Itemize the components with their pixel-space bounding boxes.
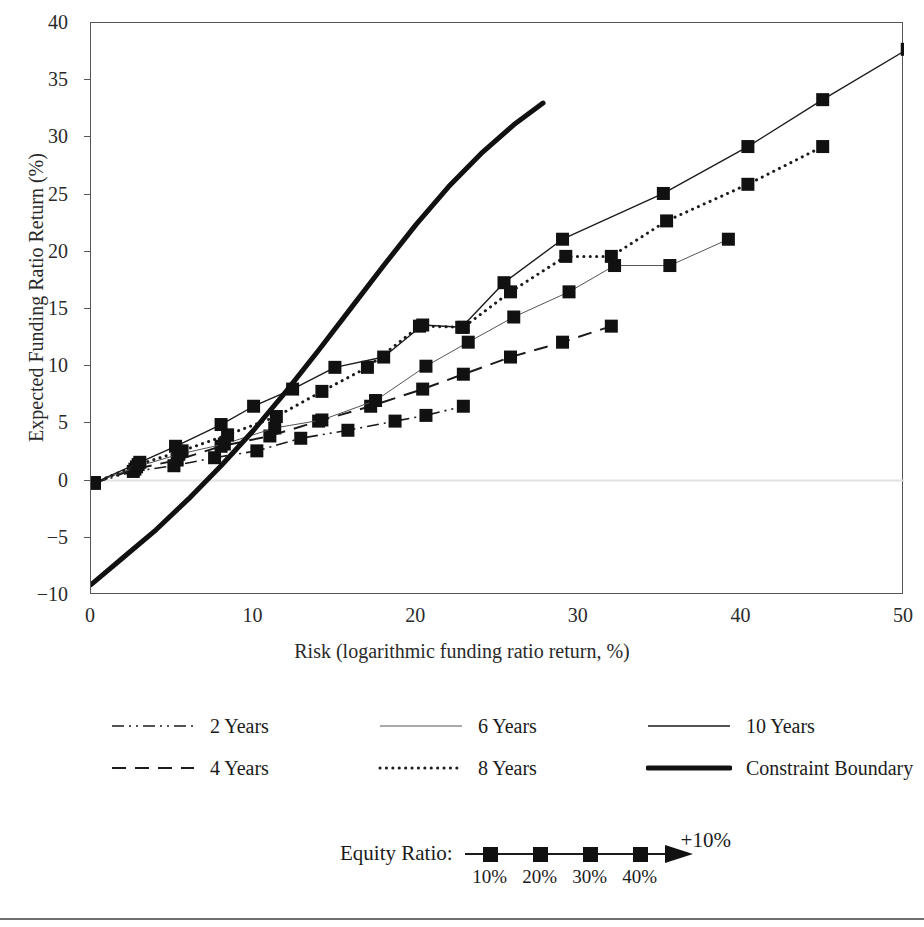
data-point-marker (341, 424, 354, 437)
series-8-years (91, 140, 829, 489)
data-point-marker (556, 233, 569, 246)
y-axis-title: Expected Funding Ratio Return (%) (25, 18, 48, 578)
data-point-marker (294, 432, 307, 445)
data-point-marker (722, 233, 735, 246)
legend-item-6-years[interactable]: 6 Years (378, 715, 537, 738)
x-tick-label: 50 (893, 604, 913, 626)
data-point-marker (250, 444, 263, 457)
data-point-marker (901, 43, 904, 56)
series-line (94, 239, 728, 483)
series-line (94, 49, 904, 483)
data-point-marker (328, 361, 341, 374)
legend-row: 4 Years8 YearsConstraint Boundary (110, 747, 910, 789)
legend-label: 8 Years (478, 757, 537, 780)
legend-swatch-icon (378, 717, 464, 735)
x-axis: 01020304050 (0, 604, 924, 638)
data-point-marker (215, 418, 228, 431)
bottom-divider (0, 918, 924, 920)
series-constraint-boundary (91, 103, 543, 585)
data-point-marker (315, 413, 328, 426)
series-line (91, 103, 543, 585)
plot-series-svg (91, 23, 904, 595)
equity-ratio-annotation: Equity Ratio: +10% 10%20%30%40% (0, 838, 924, 898)
y-tick-label: 5 (58, 412, 68, 432)
legend-item-constraint-boundary[interactable]: Constraint Boundary (646, 757, 913, 780)
y-tick-label: 30 (48, 126, 68, 146)
y-tick-label: 10 (48, 355, 68, 375)
data-point-marker (315, 385, 328, 398)
data-point-marker (507, 311, 520, 324)
data-point-marker (816, 93, 829, 106)
data-point-marker (563, 285, 576, 298)
data-point-marker (416, 383, 429, 396)
y-tick-label: 35 (48, 69, 68, 89)
equity-ratio-scale: +10% 10%20%30%40% (459, 838, 719, 894)
legend-swatch-icon (110, 759, 196, 777)
equity-ratio-tick-label: 40% (622, 866, 657, 888)
plot-area (90, 22, 903, 594)
x-tick-label: 40 (730, 604, 750, 626)
data-point-marker (369, 394, 382, 407)
x-axis-title: Risk (logarithmic funding ratio return, … (0, 640, 924, 663)
data-point-marker (605, 320, 618, 333)
legend-swatch-icon (646, 759, 732, 777)
data-point-marker (389, 415, 402, 428)
data-point-marker (377, 351, 390, 364)
x-tick-label: 10 (243, 604, 263, 626)
data-point-marker (741, 178, 754, 191)
legend-item-10-years[interactable]: 10 Years (646, 715, 815, 738)
equity-ratio-tick-label: 10% (472, 866, 507, 888)
equity-ratio-tick-label: 30% (572, 866, 607, 888)
data-point-marker (169, 440, 182, 453)
legend-label: Constraint Boundary (746, 757, 913, 780)
data-point-marker (416, 319, 429, 332)
legend-swatch-icon (110, 717, 196, 735)
data-point-marker (268, 421, 281, 434)
y-tick-label: 25 (48, 184, 68, 204)
data-point-marker (462, 336, 475, 349)
series-10-years (91, 43, 904, 490)
data-point-marker (419, 360, 432, 373)
legend-label: 6 Years (478, 715, 537, 738)
y-tick-label: −5 (47, 527, 68, 547)
data-point-marker (247, 400, 260, 413)
legend-label: 10 Years (746, 715, 815, 738)
y-tick-label: 20 (48, 241, 68, 261)
data-point-marker (419, 409, 432, 422)
x-tick-label: 30 (568, 604, 588, 626)
data-point-marker (556, 336, 569, 349)
y-tick-label: −10 (37, 584, 68, 604)
data-point-marker (457, 368, 470, 381)
x-tick-label: 20 (405, 604, 425, 626)
legend-item-4-years[interactable]: 4 Years (110, 757, 269, 780)
data-point-marker (91, 476, 101, 489)
legend-label: 4 Years (210, 757, 269, 780)
legend: 2 Years6 Years10 Years4 Years8 YearsCons… (110, 705, 910, 789)
legend-swatch-icon (646, 717, 732, 735)
x-tick-label: 0 (85, 604, 95, 626)
data-point-marker (741, 140, 754, 153)
data-point-marker (457, 400, 470, 413)
data-point-marker (660, 214, 673, 227)
equity-ratio-tick-label: 20% (522, 866, 557, 888)
data-point-marker (504, 351, 517, 364)
data-point-marker (133, 456, 146, 469)
legend-item-2-years[interactable]: 2 Years (110, 715, 269, 738)
data-point-marker (663, 259, 676, 272)
data-point-marker (208, 451, 221, 464)
data-point-marker (559, 250, 572, 263)
data-point-marker (605, 250, 618, 263)
legend-item-8-years[interactable]: 8 Years (378, 757, 537, 780)
data-point-marker (361, 361, 374, 374)
y-tick-label: 0 (58, 470, 68, 490)
data-point-marker (657, 187, 670, 200)
chart-figure: −10−50510152025303540 Expected Funding R… (0, 0, 924, 927)
data-point-marker (498, 276, 511, 289)
y-tick-label: 40 (48, 12, 68, 32)
legend-row: 2 Years6 Years10 Years (110, 705, 910, 747)
data-point-marker (455, 321, 468, 334)
legend-label: 2 Years (210, 715, 269, 738)
equity-ratio-arrow-label: +10% (681, 828, 731, 853)
equity-ratio-label: Equity Ratio: (340, 838, 453, 868)
y-tick-label: 15 (48, 298, 68, 318)
